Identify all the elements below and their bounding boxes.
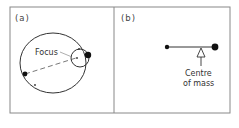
orbiting-body [23,72,28,77]
focus-label: Focus [35,48,58,57]
centre-label-line1: Centre [185,69,212,78]
panel-a: (a) Focus [15,13,91,93]
large-mass-b [212,44,219,51]
large-mass [85,52,91,58]
ellipse-mark [34,84,36,86]
elliptical-orbit [20,33,86,93]
focus-point [76,57,78,59]
panel-a-label: (a) [15,13,30,23]
fulcrum-arrow-icon [197,48,205,57]
focus-leader [60,52,72,57]
centre-label-line2: of mass [183,79,214,88]
panel-b: (b) Centre of mass [121,13,218,88]
dashed-radius [25,58,76,74]
diagram-canvas: (a) Focus (b) Centre of mass [0,0,239,128]
small-mass [165,45,169,49]
panel-b-label: (b) [121,13,136,23]
outer-frame [10,7,230,113]
small-orbit [71,49,89,67]
small-orbit-mark [78,48,80,50]
